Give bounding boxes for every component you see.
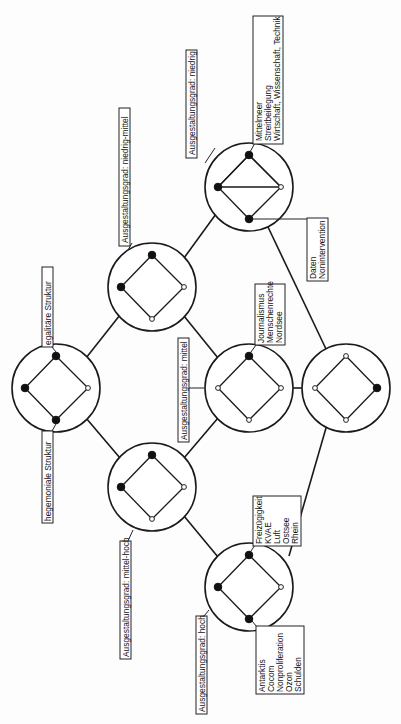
empty-node-icon <box>182 285 187 290</box>
empty-node-icon <box>279 386 284 391</box>
filled-node-icon <box>117 283 125 291</box>
lattice-node-mittel-hoch <box>108 443 196 531</box>
diagram-canvas: Ausgestaltungsgrad: niedrig Ausgestaltun… <box>0 0 401 724</box>
filled-node-icon <box>21 384 29 392</box>
label-mittel-hoch: Ausgestaltungsgrad: mittel-hoch <box>120 530 133 659</box>
filled-node-icon <box>52 352 60 360</box>
lattice-node-structure <box>12 344 100 432</box>
label-text: Ausgestaltungsgrad: mittel <box>179 341 189 440</box>
label-hoch: Ausgestaltungsgrad: hoch <box>196 610 209 714</box>
label-niedrig-mittel: Ausgestaltungsgrad: niedrig-mittel <box>119 108 132 250</box>
label-text: Ausgestaltungsgrad: niedrig <box>187 51 197 155</box>
list-mittel-top: Journalismus Menschenrechte Nordsee <box>251 281 285 352</box>
filled-node-icon <box>214 183 222 191</box>
list-hoch-top: Freizügigkeit KVAE Luft Ostsee Rhein <box>251 496 301 551</box>
filled-node-icon <box>245 615 253 623</box>
edge-c-f <box>86 418 120 458</box>
empty-node-icon <box>279 185 284 190</box>
list-item: Wirtschaft, Wissenschaft, Technik <box>272 16 282 141</box>
filled-node-icon <box>373 384 381 392</box>
empty-node-icon <box>344 418 349 423</box>
list-item: Nonintervention <box>317 220 327 279</box>
filled-node-icon <box>214 583 222 591</box>
filled-node-icon <box>245 151 253 159</box>
lattice-node-hoch <box>205 543 293 631</box>
list-hoch-bottom: Antarktis Cocom Nonproliferation Ozon Sc… <box>252 621 304 694</box>
empty-node-icon <box>344 354 349 359</box>
empty-node-icon <box>247 418 252 423</box>
lattice-node-niedrig-mittel <box>108 243 196 331</box>
empty-node-icon <box>86 386 91 391</box>
edge-f-g <box>184 516 218 557</box>
lattice-diagram: Ausgestaltungsgrad: niedrig Ausgestaltun… <box>0 0 401 724</box>
label-niedrig: Ausgestaltungsgrad: niedrig <box>186 50 215 163</box>
list-item: Rhein <box>290 522 300 544</box>
lattice-node-niedrig <box>205 143 293 231</box>
edge-a-b <box>184 214 216 258</box>
edge-b-c <box>86 315 120 358</box>
filled-node-icon <box>52 416 60 424</box>
lattice-node-bottom <box>302 344 390 432</box>
empty-node-icon <box>313 386 318 391</box>
filled-node-icon <box>245 215 253 223</box>
filled-node-icon <box>245 352 253 360</box>
label-text: Ausgestaltungsgrad: niedrig-mittel <box>120 116 130 243</box>
label-text: egalitäre Struktur <box>43 281 53 345</box>
filled-node-icon <box>117 483 125 491</box>
label-text: Ausgestaltungsgrad: hoch <box>197 615 207 712</box>
list-niedrig-top: Mittelmeer Streitbeilegung Wirtschaft, W… <box>250 16 283 152</box>
label-egalitaere-struktur: egalitäre Struktur <box>42 267 56 352</box>
filled-node-icon <box>148 251 156 259</box>
empty-node-icon <box>150 317 155 322</box>
empty-node-icon <box>150 517 155 522</box>
label-text: Ausgestaltungsgrad: mittel-hoch <box>121 537 131 657</box>
empty-node-icon <box>279 585 284 590</box>
filled-node-icon <box>245 551 253 559</box>
label-text: hegemoniale Struktur <box>43 441 53 521</box>
empty-node-icon <box>216 386 221 391</box>
label-hegemoniale-struktur: hegemoniale Struktur <box>42 424 56 523</box>
empty-node-icon <box>182 485 187 490</box>
list-item: Schulden <box>293 657 303 692</box>
leader-line <box>204 610 209 616</box>
lattice-node-mittel <box>205 344 293 432</box>
label-mittel: Ausgestaltungsgrad: mittel <box>178 338 205 442</box>
filled-node-icon <box>148 451 156 459</box>
list-item: Nordsee <box>274 311 284 343</box>
